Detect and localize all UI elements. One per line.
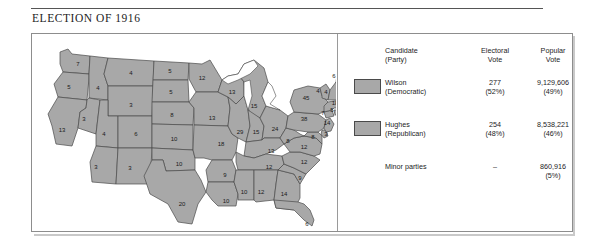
state-votes-UT: 4	[102, 131, 105, 137]
legend-electoral-wilson: 277 (52%)	[473, 78, 517, 96]
state-WY	[108, 86, 153, 116]
us-electoral-map: 1916 75134343436355810102012131891013291…	[32, 34, 336, 231]
state-votes-MI: 15	[251, 103, 258, 109]
state-votes-SD: 5	[169, 89, 172, 95]
state-votes-CO: 6	[134, 131, 137, 137]
legend-candidate-minor-parties: Minor parties	[385, 162, 427, 171]
state-votes-OR: 5	[67, 84, 70, 90]
state-votes-ND: 5	[168, 68, 171, 74]
legend-candidate-wilson: Wilson (Democratic)	[385, 78, 426, 96]
state-votes-NV: 3	[82, 116, 85, 122]
legend-header-electoral-vote: Electoral Vote	[473, 46, 517, 64]
state-votes-VT: 4	[316, 88, 319, 94]
state-votes-MT: 4	[129, 70, 132, 76]
state-PA	[286, 112, 326, 132]
page-title: ELECTION OF 1916	[32, 12, 140, 24]
state-votes-NH: 4	[324, 89, 327, 95]
state-votes-MO: 18	[218, 141, 225, 147]
state-votes-OH: 24	[272, 126, 279, 132]
state-votes-PA: 38	[301, 116, 308, 122]
state-votes-IL: 29	[237, 129, 244, 135]
state-votes-WA: 7	[76, 61, 79, 67]
legend-swatch-hughes	[354, 121, 381, 136]
state-votes-ID: 4	[96, 85, 99, 91]
state-votes-AR: 9	[223, 172, 226, 178]
legend-header-candidate: Candidate (Party)	[385, 46, 418, 64]
state-votes-CA: 13	[59, 127, 66, 133]
state-votes-AZ: 3	[94, 164, 97, 170]
state-votes-NE: 8	[170, 112, 173, 118]
state-votes-MA: 18	[332, 100, 336, 106]
state-votes-MN: 12	[199, 75, 206, 81]
title-rule	[31, 8, 543, 9]
panel-shadow-bottom	[34, 234, 575, 236]
state-votes-CT: 7	[321, 110, 324, 116]
state-votes-TN: 12	[266, 164, 273, 170]
state-votes-KY: 13	[268, 148, 275, 154]
state-votes-FL: 6	[305, 221, 308, 227]
state-votes-WY: 3	[129, 102, 132, 108]
state-OR	[54, 72, 89, 100]
legend-header-popular-vote: Popular Vote	[529, 46, 577, 64]
state-votes-TX: 20	[179, 201, 186, 207]
state-votes-VA: 12	[301, 144, 308, 150]
legend-popular-wilson: 9,129,606 (49%)	[529, 78, 577, 96]
state-votes-NY: 45	[303, 95, 310, 101]
state-votes-ME: 6	[332, 73, 335, 79]
state-RI	[334, 110, 336, 115]
legend-table: Candidate (Party) Electoral Vote Popular…	[345, 34, 573, 231]
state-votes-NJ: 14	[324, 120, 331, 126]
state-AR	[206, 160, 236, 182]
state-votes-AL: 12	[258, 189, 265, 195]
state-votes-MS: 10	[241, 189, 248, 195]
legend-popular-minor-parties: 860,916 (5%)	[529, 162, 577, 180]
state-votes-KS: 10	[171, 136, 178, 142]
election-map-figure: ELECTION OF 1916	[0, 0, 601, 249]
state-votes-OK: 10	[176, 161, 183, 167]
state-votes-IN: 15	[253, 129, 260, 135]
state-votes-NM: 3	[128, 165, 131, 171]
state-votes-SC: 9	[298, 175, 301, 181]
state-votes-MD: 8	[311, 134, 314, 140]
state-votes-RI: 5	[330, 107, 333, 113]
legend-popular-hughes: 8,538,221 (46%)	[529, 120, 577, 138]
state-votes-DE: 3	[324, 131, 327, 137]
state-WA	[60, 49, 90, 74]
state-votes-IA: 13	[209, 115, 216, 121]
state-votes-LA: 10	[223, 198, 230, 204]
panel-divider	[337, 34, 338, 231]
state-votes-WI: 13	[229, 89, 236, 95]
legend-electoral-hughes: 254 (48%)	[473, 120, 517, 138]
state-votes-GA: 14	[281, 191, 288, 197]
legend-electoral-minor-parties: –	[473, 162, 517, 171]
legend-swatch-wilson	[354, 79, 381, 94]
legend-candidate-hughes: Hughes (Republican)	[385, 120, 426, 138]
state-votes-NC: 12	[301, 159, 308, 165]
state-votes-WV: 8	[286, 138, 289, 144]
